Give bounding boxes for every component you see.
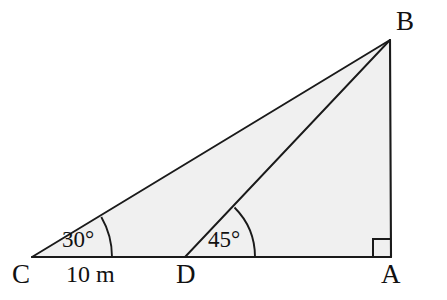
angle-label-45-degrees: 45° <box>208 228 240 251</box>
geometry-diagram: B C D A 30° 45° 10 m <box>0 0 447 300</box>
vertex-label-D: D <box>176 261 196 288</box>
vertex-label-B: B <box>396 8 414 35</box>
vertex-label-C: C <box>12 261 30 288</box>
vertex-label-A: A <box>381 261 401 288</box>
angle-label-30-degrees: 30° <box>62 228 94 251</box>
segment-AB <box>390 40 391 257</box>
geometry-canvas <box>0 0 447 300</box>
length-label-CD: 10 m <box>66 262 115 286</box>
